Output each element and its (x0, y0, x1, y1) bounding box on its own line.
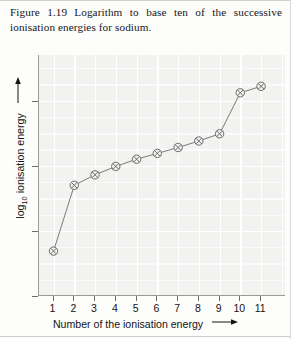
data-point-marker (70, 181, 78, 189)
data-point-marker (112, 162, 120, 170)
data-point-marker (49, 247, 57, 255)
data-point-marker (132, 155, 140, 163)
y-axis-title: log10 ionisation energy (14, 77, 26, 218)
x-axis-tick-label: 10 (228, 302, 250, 314)
y-axis-tick (32, 296, 38, 297)
data-point-marker (91, 171, 99, 179)
chart-figure: 2345 1234567891011 Number of the ionisat… (0, 44, 291, 339)
y-axis-title-wrap: log10 ionisation energy (10, 48, 26, 248)
x-axis-tick (53, 296, 54, 301)
x-axis-tick-label: 5 (125, 302, 147, 314)
x-axis-title: Number of the ionisation energy (0, 318, 291, 330)
x-axis-tick-label: 1 (42, 302, 64, 314)
y-axis-tick (32, 101, 38, 102)
x-axis-tick (219, 296, 220, 301)
x-axis-tick (177, 296, 178, 301)
data-series-layer (39, 55, 285, 296)
x-axis-tick (239, 296, 240, 301)
figure-number: Figure 1.19 (10, 6, 67, 18)
x-axis-tick (260, 296, 261, 301)
y-axis-title-sub: 10 (20, 196, 29, 204)
data-point-marker (236, 89, 244, 97)
y-axis-title-base: log (14, 205, 26, 219)
x-axis-tick-label: 3 (83, 302, 105, 314)
x-axis-tick-label: 11 (249, 302, 271, 314)
x-axis-tick (115, 296, 116, 301)
x-axis-title-text: Number of the ionisation energy (53, 318, 203, 330)
y-axis-arrow-icon (12, 77, 24, 103)
data-point-marker (195, 137, 203, 145)
plot-area (38, 55, 285, 296)
figure-page: Figure 1.19Logarithm to base ten of the … (0, 0, 291, 339)
x-axis-tick-label: 8 (187, 302, 209, 314)
x-axis-tick (198, 296, 199, 301)
y-axis-tick (32, 166, 38, 167)
x-axis-tick-label: 9 (208, 302, 230, 314)
x-axis-tick (156, 296, 157, 301)
x-axis-arrow-icon (212, 316, 238, 328)
x-axis-tick (136, 296, 137, 301)
data-point-marker (257, 82, 265, 90)
x-axis-tick (73, 296, 74, 301)
data-point-marker (153, 149, 161, 157)
x-axis-tick-label: 2 (62, 302, 84, 314)
figure-caption: Figure 1.19Logarithm to base ten of the … (10, 5, 282, 35)
x-axis-tick-label: 7 (166, 302, 188, 314)
y-axis-tick (32, 231, 38, 232)
y-axis-title-rest: ionisation energy (14, 113, 26, 196)
x-axis-tick-label: 4 (104, 302, 126, 314)
series-line (54, 86, 262, 251)
x-axis-tick-label: 6 (145, 302, 167, 314)
data-point-marker (215, 130, 223, 138)
data-point-marker (174, 143, 182, 151)
page-rule-top (0, 0, 291, 1)
x-axis-tick (94, 296, 95, 301)
